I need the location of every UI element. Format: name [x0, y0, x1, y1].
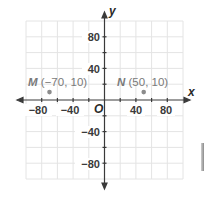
- point-n-coords: (50, 10): [129, 76, 169, 88]
- y-tick-40: 40: [88, 63, 100, 75]
- y-tick-neg40: −40: [81, 126, 100, 138]
- point-m-coords: (−70, 10): [41, 76, 88, 88]
- point-m-name: M: [28, 76, 38, 88]
- y-tick-neg80: −80: [81, 158, 100, 170]
- point-m: [47, 90, 52, 95]
- x-axis-left-arrow-icon: [17, 98, 23, 103]
- x-axis: [17, 98, 190, 103]
- coordinate-plane: 80 40 −40 −80 −80 −40 40 80 O x y M (−70…: [0, 0, 204, 206]
- y-tick-80: 80: [88, 31, 100, 43]
- point-n: [141, 90, 146, 95]
- page-edge-shadow: [201, 143, 204, 171]
- x-tick-80: 80: [160, 104, 172, 116]
- point-n-name: N: [117, 76, 126, 88]
- x-axis-label: x: [187, 85, 196, 99]
- y-axis-label: y: [108, 4, 117, 18]
- x-tick-neg40: −40: [61, 104, 80, 116]
- y-axis-down-arrow-icon: [102, 183, 107, 189]
- x-tick-neg80: −80: [29, 104, 48, 116]
- y-axis-up-arrow-icon: [102, 12, 107, 18]
- point-n-label: N (50, 10): [117, 76, 168, 88]
- origin-label: O: [94, 102, 104, 116]
- x-tick-40: 40: [130, 104, 142, 116]
- point-m-label: M (−70, 10): [28, 76, 87, 88]
